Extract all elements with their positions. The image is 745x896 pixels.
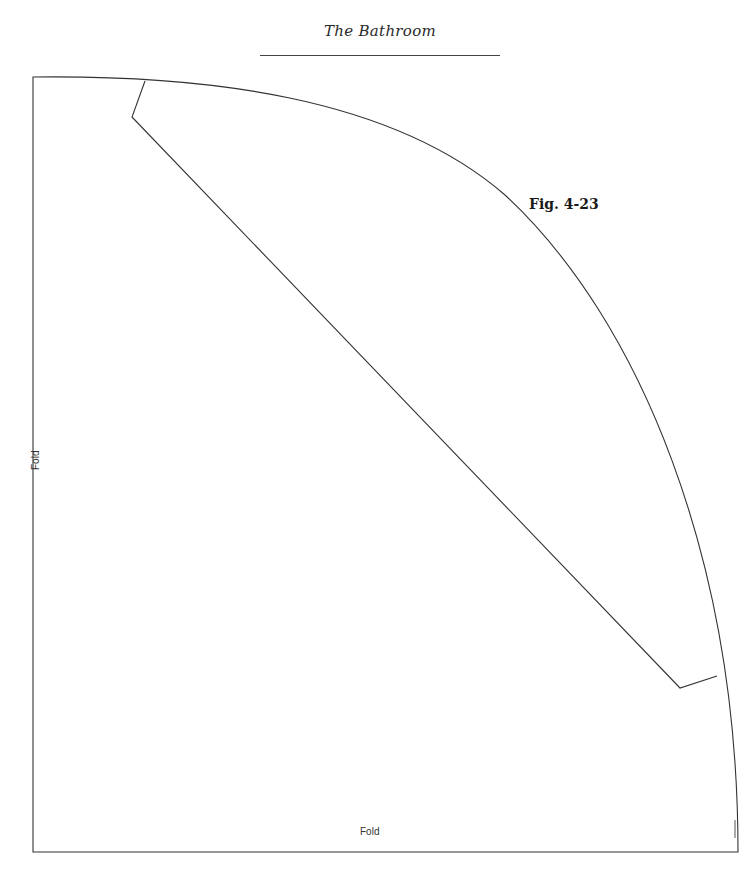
fold-label-left: Fold: [30, 440, 44, 470]
inner-pattern-piece: [132, 81, 717, 688]
outer-pattern-outline: [33, 77, 738, 852]
pattern-diagram: [0, 0, 745, 896]
fold-label-bottom: Fold: [360, 826, 379, 837]
figure-label: Fig. 4-23: [529, 196, 599, 212]
